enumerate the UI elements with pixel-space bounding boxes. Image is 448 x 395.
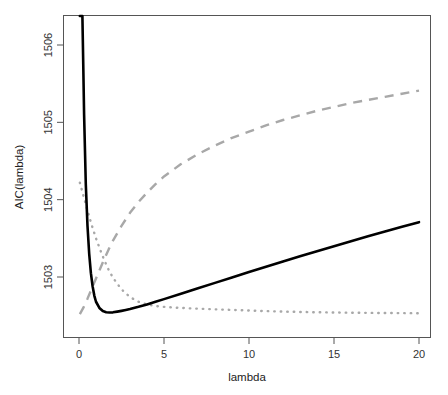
y-tick-label: 1503: [42, 265, 54, 289]
x-tick-label: 10: [243, 348, 255, 360]
y-tick-label: 1505: [42, 110, 54, 134]
x-tick-label: 20: [413, 348, 425, 360]
y-tick-label: 1506: [42, 33, 54, 57]
x-axis-title: lambda: [228, 371, 266, 383]
y-tick-label: 1504: [42, 187, 54, 211]
x-tick-label: 5: [161, 348, 167, 360]
y-axis-title: AIC(lambda): [13, 145, 25, 210]
chart-background: [0, 0, 448, 395]
aic-lambda-line-chart: 05101520 1503150415051506 lambda AIC(lam…: [0, 0, 448, 395]
x-tick-label: 0: [76, 348, 82, 360]
chart-plot-area: 05101520 1503150415051506 lambda AIC(lam…: [0, 0, 448, 395]
x-tick-label: 15: [328, 348, 340, 360]
